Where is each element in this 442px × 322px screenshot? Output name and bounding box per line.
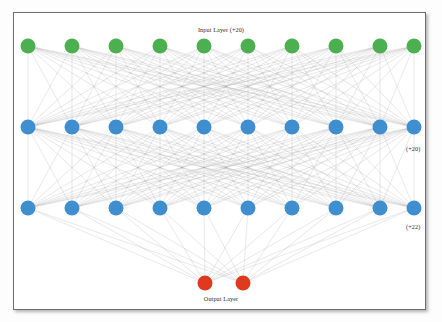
- node-hidden-layer-2: [197, 201, 212, 216]
- input-layer-label: Input Layer (+20): [0, 26, 442, 33]
- edge: [28, 208, 205, 283]
- edge: [243, 208, 248, 283]
- edge: [243, 208, 380, 283]
- node-hidden-layer-1: [109, 120, 124, 135]
- node-hidden-layer-2: [109, 201, 124, 216]
- edge: [204, 208, 243, 283]
- edges-group: [28, 46, 414, 283]
- node-input-layer: [197, 39, 212, 54]
- hidden-layer-2-label: (+22): [406, 223, 420, 230]
- edge: [205, 208, 248, 283]
- node-output-layer: [236, 276, 251, 291]
- edge: [243, 208, 336, 283]
- node-input-layer: [65, 39, 80, 54]
- edge: [205, 208, 380, 283]
- edge: [204, 208, 205, 283]
- hidden-layer-1-label: (+20): [406, 145, 420, 152]
- node-input-layer: [285, 39, 300, 54]
- edge: [243, 208, 292, 283]
- node-hidden-layer-1: [197, 120, 212, 135]
- node-input-layer: [407, 39, 422, 54]
- node-hidden-layer-1: [329, 120, 344, 135]
- output-layer-label: Output Layer: [0, 295, 442, 302]
- edge: [205, 208, 336, 283]
- node-input-layer: [109, 39, 124, 54]
- edge: [160, 208, 243, 283]
- node-input-layer: [329, 39, 344, 54]
- edge: [160, 208, 205, 283]
- node-hidden-layer-2: [407, 201, 422, 216]
- node-hidden-layer-1: [373, 120, 388, 135]
- node-input-layer: [21, 39, 36, 54]
- node-hidden-layer-2: [241, 201, 256, 216]
- edge: [116, 208, 205, 283]
- edge: [243, 208, 414, 283]
- node-input-layer: [373, 39, 388, 54]
- node-output-layer: [198, 276, 213, 291]
- edge: [28, 208, 243, 283]
- diagram-canvas: Input Layer (+20) (+20) (+22) Output Lay…: [0, 0, 442, 322]
- neural-network-graph: [0, 0, 442, 322]
- edge: [72, 208, 205, 283]
- edge: [72, 208, 243, 283]
- node-hidden-layer-1: [153, 120, 168, 135]
- node-hidden-layer-1: [21, 120, 36, 135]
- node-input-layer: [241, 39, 256, 54]
- edge: [205, 208, 414, 283]
- node-hidden-layer-2: [65, 201, 80, 216]
- node-input-layer: [153, 39, 168, 54]
- node-hidden-layer-1: [65, 120, 80, 135]
- node-hidden-layer-2: [285, 201, 300, 216]
- node-hidden-layer-2: [21, 201, 36, 216]
- node-hidden-layer-2: [329, 201, 344, 216]
- node-hidden-layer-1: [407, 120, 422, 135]
- node-hidden-layer-2: [373, 201, 388, 216]
- node-hidden-layer-2: [153, 201, 168, 216]
- node-hidden-layer-1: [241, 120, 256, 135]
- node-hidden-layer-1: [285, 120, 300, 135]
- edge: [205, 208, 292, 283]
